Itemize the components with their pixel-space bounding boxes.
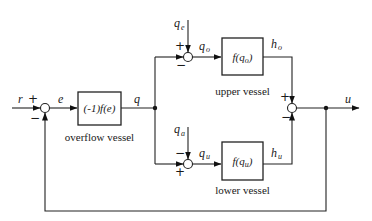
lower-block-label: f(qu): [233, 155, 253, 169]
label-h-o: ho: [271, 37, 282, 52]
label-q-u: qu: [199, 146, 210, 161]
sign-upper-sum-top: +: [175, 39, 185, 53]
overflow-vessel-caption: overflow vessel: [65, 131, 134, 143]
sign-upper-sum-left: −: [176, 58, 186, 72]
label-q-a: qa: [174, 122, 185, 138]
summing-junction-input: [41, 104, 50, 113]
sign-out-sum-top: +: [280, 90, 290, 104]
sign-lower-sum-top: −: [175, 146, 185, 160]
sign-sum1-bottom: −: [30, 111, 40, 125]
overflow-block-label: (-1)f(e): [84, 102, 116, 115]
label-q: q: [134, 92, 140, 106]
label-u: u: [345, 92, 351, 106]
block-diagram: r + − e (-1)f(e) overflow vessel q qe + …: [0, 0, 372, 221]
lower-vessel-caption: lower vessel: [215, 184, 270, 196]
upper-vessel-caption: upper vessel: [215, 85, 270, 97]
label-r: r: [18, 92, 23, 106]
sign-sum1-top: +: [28, 92, 38, 106]
label-h-u: hu: [271, 146, 282, 161]
sign-lower-sum-left: +: [175, 165, 185, 179]
sign-out-sum-bottom: −: [281, 110, 291, 124]
label-q-o: qo: [199, 39, 210, 54]
label-e: e: [58, 92, 64, 106]
label-q-e: qe: [174, 16, 185, 32]
upper-block-label: f(qo): [233, 51, 253, 65]
